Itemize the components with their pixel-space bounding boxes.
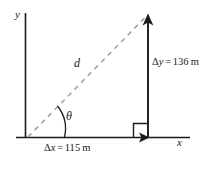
delta-y-variable: y xyxy=(159,56,164,67)
delta-x-value: 115 xyxy=(65,142,81,153)
x-axis-label: x xyxy=(177,137,182,148)
delta-x-label: Δx=115m xyxy=(44,143,91,154)
delta-x-unit: m xyxy=(82,142,90,153)
delta-y-equals: = xyxy=(165,56,171,67)
hypotenuse-label: d xyxy=(74,57,80,69)
hypotenuse-dashed-line xyxy=(28,17,146,138)
angle-arc xyxy=(58,106,66,137)
delta-y-value: 136 xyxy=(173,56,189,67)
angle-label: θ xyxy=(66,110,72,122)
delta-x-variable: x xyxy=(51,142,56,153)
delta-x-delta-symbol: Δ xyxy=(44,142,51,153)
y-axis-label: y xyxy=(15,9,20,20)
vector-diagram-figure: y x d θ Δy=136m Δx=115m xyxy=(0,0,212,169)
delta-y-unit: m xyxy=(191,56,199,67)
delta-y-label: Δy=136m xyxy=(152,57,199,68)
delta-x-equals: = xyxy=(57,142,63,153)
delta-y-delta-symbol: Δ xyxy=(152,56,159,67)
